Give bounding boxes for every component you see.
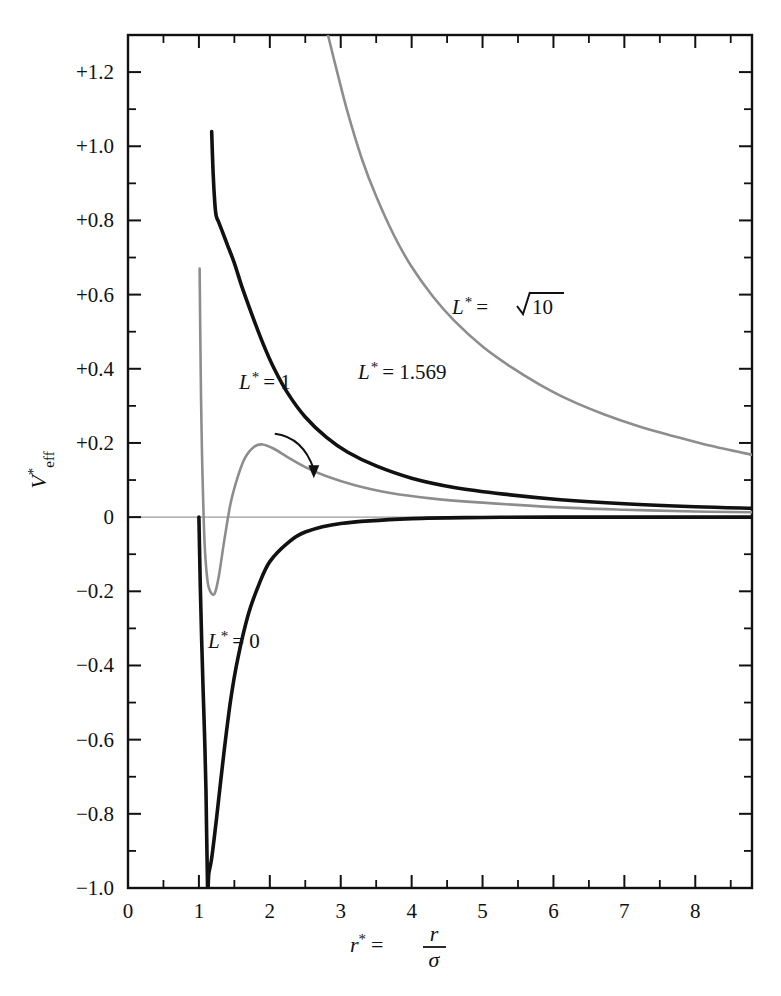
y-tick-label: 0 [104,505,115,529]
x-tick-label: 7 [619,899,630,923]
annotation-l1-star: * [252,369,260,385]
y-tick-label: +0.8 [76,208,114,232]
x-axis-title-numerator: r [430,921,439,946]
x-tick-label: 5 [477,899,488,923]
annotation-l0-symbol: L [207,629,220,653]
y-tick-label: −0.2 [76,579,114,603]
y-tick-label: +1.2 [76,60,114,84]
x-tick-label: 8 [690,899,701,923]
chart-background [0,0,781,996]
y-axis-title-subscript: eff [41,451,57,467]
annotation-l1569-star: * [371,359,379,375]
x-tick-label: 4 [406,899,417,923]
effective-potential-chart: +1.2+1.0+0.8+0.6+0.4+0.20−0.2−0.4−0.6−0.… [0,0,781,996]
effective-potential-figure: +1.2+1.0+0.8+0.6+0.4+0.20−0.2−0.4−0.6−0.… [0,0,781,996]
annotation-l0-value: = 0 [232,629,260,653]
annotation-lsqrt10-equals: = [476,295,488,319]
annotation-lsqrt10-radicand: 10 [532,295,553,319]
annotation-l1-symbol: L [238,370,251,394]
y-tick-label: −0.4 [76,653,115,677]
x-tick-label: 0 [123,899,134,923]
svg-text:L*= 0: L*= 0 [207,628,260,653]
y-tick-label: +0.2 [76,431,114,455]
x-tick-label: 6 [548,899,559,923]
x-tick-label: 2 [265,899,276,923]
y-tick-label: +0.4 [76,357,115,381]
y-tick-label: −0.8 [76,802,114,826]
y-tick-label: +1.0 [76,134,114,158]
annotation-l-star-0: L*= 0 [207,628,260,653]
y-tick-label: +0.6 [76,283,114,307]
annotation-l1-value: = 1 [263,370,291,394]
y-tick-label: −0.6 [76,728,114,752]
annotation-l1569-symbol: L [357,360,370,384]
x-axis-title-superscript: * [359,931,367,947]
annotation-l0-star: * [221,628,229,644]
x-axis-title-equals: = [371,932,383,957]
x-tick-label: 3 [335,899,346,923]
y-tick-label: −1.0 [76,876,114,900]
annotation-l1569-value: = 1.569 [382,360,446,384]
y-axis-title-superscript: * [25,468,41,476]
svg-text:L*= 1: L*= 1 [238,369,291,394]
x-tick-label: 1 [194,899,205,923]
annotation-lsqrt10-star: * [465,294,473,310]
x-axis-title-denominator: σ [429,947,441,972]
annotation-lsqrt10-symbol: L [451,295,464,319]
